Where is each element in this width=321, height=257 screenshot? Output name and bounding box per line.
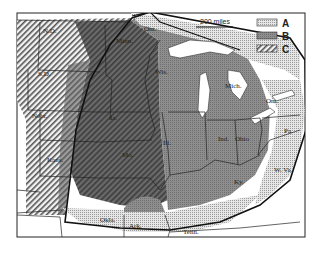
label-ark: Ark. bbox=[129, 222, 142, 230]
legend-label-a: A bbox=[282, 18, 289, 29]
label-ind: Ind. bbox=[218, 135, 229, 143]
legend-label-b: B bbox=[282, 31, 289, 42]
label-okla: Okla. bbox=[100, 216, 116, 224]
label-mo: Mo. bbox=[122, 151, 134, 159]
legend-swatch-a bbox=[257, 19, 277, 26]
legend-label-c: C bbox=[282, 44, 289, 55]
label-ont-east: Ont. bbox=[266, 97, 279, 105]
label-ohio: Ohio bbox=[235, 135, 250, 143]
label-nebr: Nebr. bbox=[32, 112, 48, 120]
label-ia: Ia. bbox=[110, 114, 117, 122]
scale-bar-label: 200 miles bbox=[200, 18, 230, 25]
label-nd: N.D. bbox=[43, 27, 57, 35]
label-ky: Ky. bbox=[234, 178, 244, 186]
regional-map: 200 miles A B C N.D. S.D. Nebr. Kans. Mi… bbox=[0, 0, 321, 257]
label-tenn: Tenn. bbox=[183, 228, 199, 236]
label-wis: Wis. bbox=[155, 68, 168, 76]
label-minn: Minn. bbox=[116, 37, 133, 45]
legend: A B C bbox=[257, 18, 289, 55]
label-ill: Ill. bbox=[163, 139, 171, 147]
label-mich: Mich. bbox=[225, 82, 242, 90]
legend-swatch-c bbox=[257, 45, 277, 52]
label-pa: Pa. bbox=[284, 127, 293, 135]
label-ont-north: Ont. bbox=[144, 25, 157, 33]
label-sd: S.D. bbox=[38, 70, 51, 78]
legend-swatch-b bbox=[257, 32, 277, 39]
label-kans: Kans. bbox=[47, 156, 63, 164]
label-wva: W. Va. bbox=[274, 166, 293, 174]
